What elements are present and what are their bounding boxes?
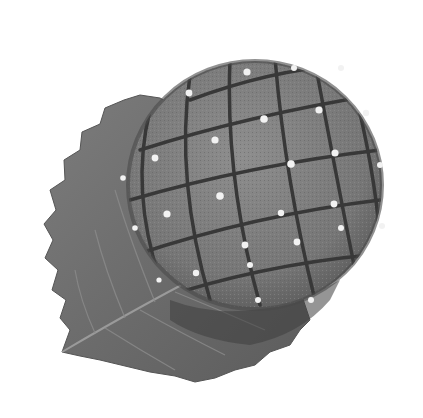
photo-scene: Grayscale photo of a round wagashi-style… [0, 0, 423, 418]
photo-canvas [0, 0, 423, 418]
